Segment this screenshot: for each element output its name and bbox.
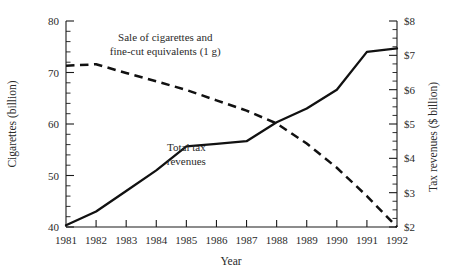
left-axis-tick-labels: 4050607080 (48, 15, 60, 233)
x-tick-label: 1985 (175, 234, 198, 246)
right-tick-label: $4 (404, 152, 416, 164)
x-tick-label: 1982 (85, 234, 107, 246)
tax-revenues-label-line-2: revenues (167, 155, 206, 167)
x-tick-label: 1987 (236, 234, 259, 246)
x-tick-label: 1983 (115, 234, 138, 246)
x-tick-label: 1986 (205, 234, 228, 246)
right-axis-title: Tax revenues ($ billion) (427, 82, 440, 192)
right-tick-label: $6 (404, 84, 416, 96)
right-tick-label: $3 (404, 187, 416, 199)
x-tick-label: 1990 (326, 234, 349, 246)
right-tick-label: $5 (404, 118, 416, 130)
right-tick-label: $8 (404, 15, 416, 27)
x-tick-label: 1988 (266, 234, 289, 246)
x-tick-label: 1984 (145, 234, 168, 246)
right-axis-ticks (389, 21, 397, 227)
x-tick-label: 1991 (356, 234, 378, 246)
left-tick-label: 50 (48, 170, 60, 182)
series-line-total-tax-revenues (66, 48, 397, 225)
tax-revenues-label-line-1: Total tax (167, 141, 206, 153)
x-axis-title: Year (220, 255, 241, 267)
left-tick-label: 70 (48, 67, 60, 79)
chart-figure: 4050607080 $2$3$4$5$6$7$8 19811982198319… (0, 0, 454, 271)
left-tick-label: 60 (48, 118, 60, 130)
bottom-axis-ticks (96, 220, 367, 227)
right-axis-tick-labels: $2$3$4$5$6$7$8 (404, 15, 416, 233)
x-tick-label: 1992 (386, 234, 408, 246)
cigarettes-label-line-2: fine-cut equivalents (1 g) (110, 45, 221, 58)
left-axis-ticks (66, 21, 74, 227)
cigarettes-label-line-1: Sale of cigarettes and (118, 31, 213, 43)
left-tick-label: 80 (48, 15, 60, 27)
series-line-cigarettes-sales (66, 64, 397, 227)
left-tick-label: 40 (48, 221, 60, 233)
bottom-axis-tick-labels: 1981198219831984198519861987198819891990… (55, 234, 408, 246)
left-axis-title: Cigarettes (billion) (6, 80, 19, 167)
x-tick-label: 1981 (55, 234, 77, 246)
right-tick-label: $7 (404, 49, 416, 61)
line-chart-canvas: 4050607080 $2$3$4$5$6$7$8 19811982198319… (0, 0, 454, 271)
right-tick-label: $2 (404, 221, 415, 233)
x-tick-label: 1989 (296, 234, 319, 246)
